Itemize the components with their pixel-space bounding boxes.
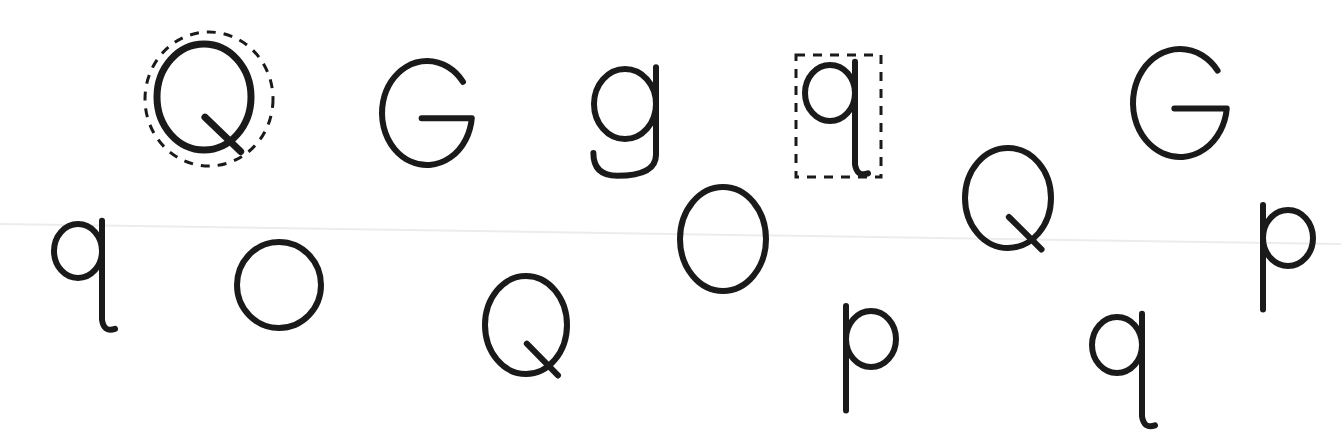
glyph-bowl-O bbox=[237, 242, 321, 328]
glyph-bowl-q bbox=[1092, 317, 1142, 373]
glyph-Q-glyph-1 bbox=[157, 44, 251, 152]
glyph-q-glyph-12 bbox=[1092, 314, 1155, 427]
glyph-bowl-Q bbox=[965, 148, 1051, 248]
glyph-q-glyph-4 bbox=[805, 62, 868, 175]
glyph-stem-hook-right bbox=[1142, 314, 1155, 427]
glyph-stem-hook-right bbox=[102, 221, 115, 330]
glyph-g-glyph-3 bbox=[593, 67, 656, 176]
glyph-bowl-q bbox=[54, 224, 102, 278]
baseline-rule bbox=[0, 224, 1341, 244]
glyph-bowl-g bbox=[594, 69, 656, 139]
glyph-O-glyph-8 bbox=[237, 242, 321, 328]
glyph-bowl-O bbox=[680, 187, 766, 291]
glyph-p-glyph-11 bbox=[846, 306, 896, 410]
glyph-bowl-Q bbox=[485, 276, 567, 374]
glyph-O-glyph-9 bbox=[680, 187, 766, 291]
glyph-stem-hook-right bbox=[855, 62, 868, 175]
glyph-p-glyph-13 bbox=[1263, 205, 1313, 309]
glyph-q-glyph-7 bbox=[54, 221, 115, 330]
glyph-body-G bbox=[1133, 49, 1227, 157]
glyph-bowl-p bbox=[1263, 210, 1313, 266]
glyph-layer bbox=[0, 0, 1341, 439]
glyph-body-G bbox=[382, 61, 472, 165]
glyph-bowl-p bbox=[846, 311, 896, 367]
glyph-bowl-q bbox=[805, 65, 855, 121]
glyph-Q-glyph-10 bbox=[485, 276, 567, 375]
glyph-G-glyph-5 bbox=[1133, 49, 1227, 157]
glyph-bowl-Q bbox=[157, 44, 251, 150]
glyph-G-glyph-2 bbox=[382, 61, 472, 165]
glyph-Q-glyph-6 bbox=[965, 148, 1051, 250]
letterform-canvas: Letterform Annotation Canvas Scattered g… bbox=[0, 0, 1341, 439]
